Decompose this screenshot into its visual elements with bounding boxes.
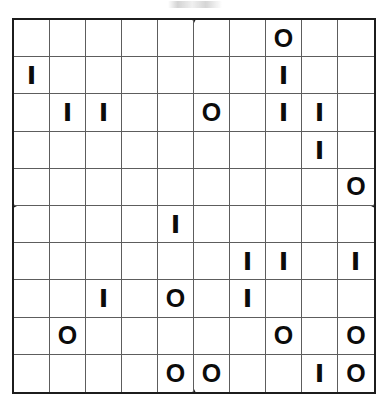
grid-cell[interactable] — [14, 355, 50, 392]
grid-cell[interactable] — [194, 57, 230, 94]
grid-cell[interactable] — [230, 132, 266, 169]
grid-cell[interactable] — [194, 169, 230, 206]
grid-cell[interactable] — [230, 355, 266, 392]
grid-cell[interactable] — [230, 94, 266, 131]
grid-cell[interactable]: O — [338, 318, 374, 355]
grid-cell[interactable] — [194, 20, 230, 57]
grid-cell[interactable] — [266, 280, 302, 317]
grid-cell[interactable]: I — [50, 94, 86, 131]
grid-cell[interactable] — [14, 169, 50, 206]
grid-cell[interactable] — [14, 243, 50, 280]
grid-cell[interactable] — [302, 20, 338, 57]
grid-cell[interactable] — [302, 57, 338, 94]
grid-cell[interactable] — [50, 355, 86, 392]
grid-cell[interactable] — [158, 169, 194, 206]
grid-cell[interactable] — [194, 318, 230, 355]
grid-cell[interactable]: I — [338, 243, 374, 280]
grid-cell[interactable] — [338, 132, 374, 169]
grid-cell[interactable] — [230, 206, 266, 243]
grid-cell[interactable]: O — [194, 355, 230, 392]
grid-cell[interactable] — [266, 169, 302, 206]
grid-cell[interactable] — [86, 318, 122, 355]
grid-cell[interactable] — [302, 318, 338, 355]
grid-cell[interactable]: I — [302, 355, 338, 392]
grid-cell[interactable] — [158, 132, 194, 169]
grid-cell[interactable] — [338, 94, 374, 131]
grid-cell[interactable] — [194, 243, 230, 280]
grid-cell[interactable]: O — [338, 169, 374, 206]
grid-cell[interactable] — [266, 132, 302, 169]
grid-cell[interactable] — [194, 132, 230, 169]
grid-cell[interactable]: I — [86, 94, 122, 131]
grid-cell[interactable]: O — [194, 94, 230, 131]
grid-cell[interactable] — [122, 280, 158, 317]
grid-cell[interactable]: I — [266, 243, 302, 280]
grid-cell[interactable] — [86, 243, 122, 280]
grid-cell[interactable] — [86, 169, 122, 206]
grid-cell[interactable] — [122, 132, 158, 169]
grid-cell[interactable] — [14, 20, 50, 57]
grid-cell[interactable] — [14, 132, 50, 169]
grid-cell[interactable] — [86, 132, 122, 169]
grid-cell[interactable] — [86, 206, 122, 243]
grid-cell[interactable] — [14, 94, 50, 131]
grid-cell[interactable]: O — [338, 355, 374, 392]
grid-cell[interactable] — [266, 206, 302, 243]
grid-cell[interactable] — [158, 318, 194, 355]
grid-cell[interactable] — [50, 57, 86, 94]
grid-cell[interactable] — [122, 206, 158, 243]
grid-cell[interactable] — [158, 20, 194, 57]
grid-cell[interactable] — [338, 20, 374, 57]
grid-cell[interactable]: O — [158, 280, 194, 317]
grid-cell[interactable] — [50, 243, 86, 280]
grid-cell[interactable]: I — [302, 132, 338, 169]
grid-cell[interactable]: I — [266, 57, 302, 94]
grid-cell[interactable] — [86, 355, 122, 392]
grid-cell[interactable]: O — [158, 355, 194, 392]
grid-cell[interactable] — [230, 20, 266, 57]
grid-cell[interactable] — [122, 169, 158, 206]
grid-cell[interactable] — [338, 206, 374, 243]
grid-cell[interactable] — [86, 20, 122, 57]
grid-cell[interactable] — [86, 57, 122, 94]
grid-cell[interactable] — [14, 206, 50, 243]
grid-cell[interactable] — [122, 94, 158, 131]
grid-cell[interactable] — [302, 169, 338, 206]
grid-cell[interactable]: I — [302, 94, 338, 131]
grid-cell[interactable]: I — [266, 94, 302, 131]
grid-cell[interactable] — [230, 169, 266, 206]
grid-cell[interactable] — [50, 20, 86, 57]
grid-cell[interactable] — [338, 280, 374, 317]
grid-cell[interactable] — [50, 280, 86, 317]
grid-cell[interactable] — [50, 132, 86, 169]
grid-cell[interactable] — [302, 206, 338, 243]
grid-cell[interactable]: O — [266, 318, 302, 355]
grid-cell[interactable] — [50, 206, 86, 243]
grid-cell[interactable]: I — [230, 280, 266, 317]
grid-cell[interactable] — [158, 57, 194, 94]
grid-cell[interactable] — [122, 318, 158, 355]
grid-cell[interactable]: I — [230, 243, 266, 280]
grid-cell[interactable] — [50, 169, 86, 206]
grid-cell[interactable]: I — [14, 57, 50, 94]
grid-cell[interactable] — [122, 243, 158, 280]
grid-cell[interactable] — [302, 280, 338, 317]
grid-cell[interactable] — [230, 57, 266, 94]
grid-cell[interactable]: O — [50, 318, 86, 355]
grid-cell[interactable] — [14, 280, 50, 317]
grid-cell[interactable] — [122, 20, 158, 57]
grid-cell[interactable] — [338, 57, 374, 94]
grid-cell[interactable] — [230, 318, 266, 355]
grid-cell[interactable] — [122, 57, 158, 94]
grid-cell[interactable] — [194, 206, 230, 243]
grid-cell[interactable] — [302, 243, 338, 280]
grid-cell[interactable]: O — [266, 20, 302, 57]
grid-cell[interactable] — [266, 355, 302, 392]
grid-cell[interactable] — [158, 243, 194, 280]
grid-cell[interactable]: I — [86, 280, 122, 317]
grid-cell[interactable] — [158, 94, 194, 131]
grid-cell[interactable] — [14, 318, 50, 355]
grid-cell[interactable] — [194, 280, 230, 317]
grid-cell[interactable]: I — [158, 206, 194, 243]
grid-cell[interactable] — [122, 355, 158, 392]
